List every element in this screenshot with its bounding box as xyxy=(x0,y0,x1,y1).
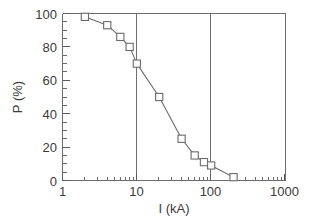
data-point-marker xyxy=(208,162,215,169)
y-tick-label-60: 60 xyxy=(43,73,57,88)
data-point-marker xyxy=(156,93,163,100)
y-tick-label-100: 100 xyxy=(35,7,57,22)
data-point-marker xyxy=(230,174,237,181)
data-point-marker xyxy=(133,60,140,67)
data-point-marker xyxy=(126,43,133,50)
chart-figure: 100 80 60 40 20 0 1 10 100 1000 I (kA) P… xyxy=(0,0,310,223)
data-point-marker xyxy=(200,159,207,166)
x-tick-label-1000: 1000 xyxy=(270,184,299,199)
x-axis-title: I (kA) xyxy=(158,201,189,216)
data-point-marker xyxy=(81,13,88,20)
y-tick-label-20: 20 xyxy=(43,140,57,155)
y-tick-label-80: 80 xyxy=(43,40,57,55)
data-point-marker xyxy=(117,33,124,40)
data-point-marker xyxy=(191,152,198,159)
x-tick-label-10: 10 xyxy=(129,184,143,199)
y-axis-title: P (%) xyxy=(10,81,25,113)
data-point-marker xyxy=(104,22,111,29)
y-tick-label-0: 0 xyxy=(50,174,57,189)
x-tick-label-1: 1 xyxy=(59,184,66,199)
data-point-marker xyxy=(178,135,185,142)
x-tick-label-100: 100 xyxy=(200,184,222,199)
probability-vs-current-chart: 100 80 60 40 20 0 1 10 100 1000 I (kA) P… xyxy=(0,0,310,223)
y-tick-label-40: 40 xyxy=(43,107,57,122)
